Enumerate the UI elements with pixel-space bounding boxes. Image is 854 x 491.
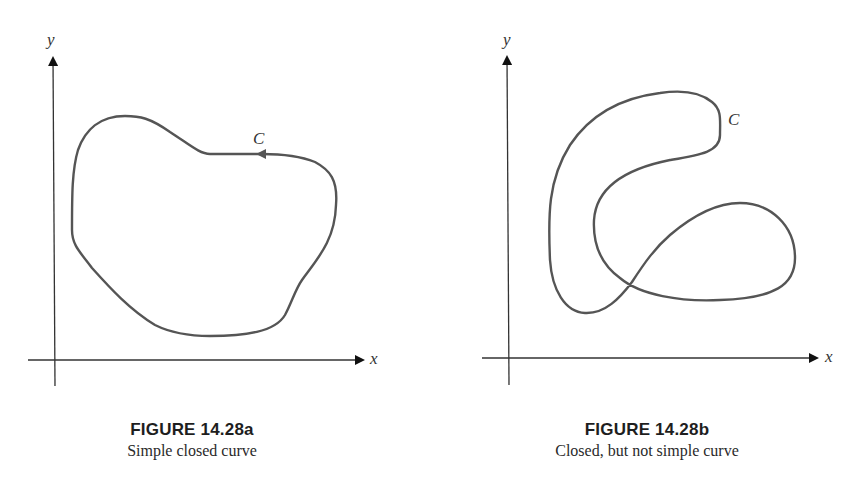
figure-b-non-simple-closed-curve: [549, 92, 795, 313]
figure-a-y-label: y: [47, 30, 55, 50]
figure-a-description: Simple closed curve: [42, 442, 342, 460]
figure-a-caption: FIGURE 14.28a Simple closed curve: [42, 420, 342, 460]
figure-b-y-axis: [507, 57, 509, 385]
figure-a-x-label: x: [370, 349, 378, 369]
figure-b-curve-label: C: [728, 110, 739, 130]
figure-b-description: Closed, but not simple curve: [497, 442, 797, 460]
figure-b-y-label: y: [503, 30, 511, 50]
figure-a-axes: [28, 58, 363, 386]
figure-a-curve-label: C: [253, 129, 264, 149]
figure-a-simple-closed-curve: [72, 116, 336, 336]
figure-b-axes: [482, 57, 817, 385]
figures-canvas: [0, 0, 854, 491]
figure-b-caption: FIGURE 14.28b Closed, but not simple cur…: [497, 420, 797, 460]
figure-a-y-axis: [53, 58, 55, 386]
figure-a-number: FIGURE 14.28a: [42, 420, 342, 440]
direction-arrow-icon: [256, 149, 266, 159]
figure-b-number: FIGURE 14.28b: [497, 420, 797, 440]
figure-b-x-label: x: [825, 347, 833, 367]
